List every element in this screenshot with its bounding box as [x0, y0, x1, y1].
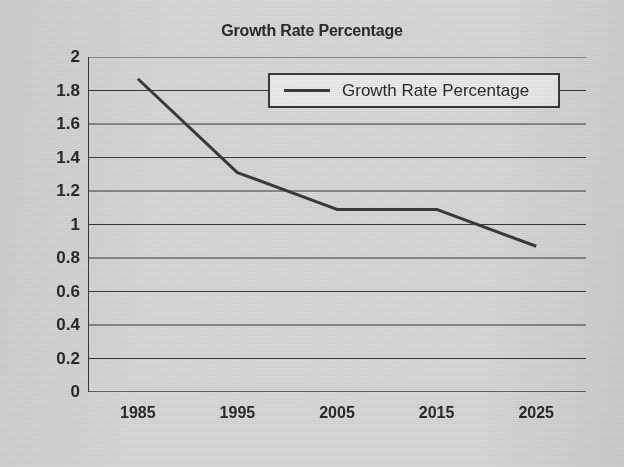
- chart-title: Growth Rate Percentage: [0, 22, 624, 40]
- legend-label: Growth Rate Percentage: [342, 81, 529, 101]
- y-axis-labels: 21.81.61.41.210.80.60.40.20: [8, 57, 80, 392]
- y-axis-tick-label: 0.2: [10, 349, 80, 369]
- y-axis-tick-label: 1.4: [10, 148, 80, 168]
- y-axis-tick-label: 1.2: [10, 181, 80, 201]
- y-axis-tick-label: 0.6: [10, 282, 80, 302]
- x-axis-tick-label: 2005: [319, 404, 355, 422]
- x-axis-tick-label: 2025: [518, 404, 554, 422]
- y-axis-tick-label: 2: [10, 47, 80, 67]
- chart-legend[interactable]: Growth Rate Percentage: [268, 73, 560, 108]
- y-axis-tick-label: 1: [10, 215, 80, 235]
- y-axis-tick-label: 0: [10, 382, 80, 402]
- y-axis-tick-label: 1.6: [10, 114, 80, 134]
- x-axis-tick-label: 1985: [120, 404, 156, 422]
- x-axis-labels: 19851995200520152025: [88, 404, 586, 430]
- x-axis-tick-label: 2015: [419, 404, 455, 422]
- x-axis-tick-label: 1995: [220, 404, 256, 422]
- y-axis-tick-label: 0.4: [10, 315, 80, 335]
- chart-page: Growth Rate Percentage 21.81.61.41.210.8…: [0, 0, 624, 467]
- legend-line-swatch: [284, 89, 330, 92]
- y-axis-tick-label: 1.8: [10, 81, 80, 101]
- y-axis-tick-label: 0.8: [10, 248, 80, 268]
